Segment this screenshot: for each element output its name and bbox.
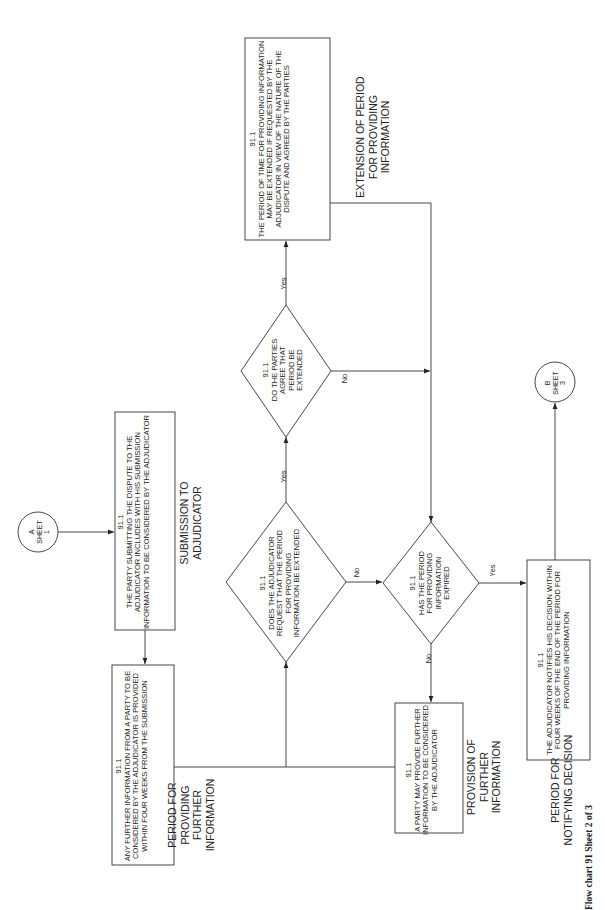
provision-description: A PARTY MAY PROVIDE FURTHER INFORMATION … (413, 705, 439, 835)
label-expired-yes: Yes (488, 564, 497, 576)
connector-a: A SHEET 1 (28, 512, 48, 552)
parties-agree-text: 91.1 DO THE PARTIES AGREE THAT PERIOD BE… (262, 335, 310, 405)
submission-text: 91.1 THE PARTY SUBMITTING THE DISPUTE TO… (115, 413, 175, 631)
extension-description: THE PERIOD OF TIME FOR PROVIDING INFORMA… (257, 41, 292, 238)
connector-a-sheet-label: SHEET (36, 512, 44, 552)
connector-a-letter: A (28, 512, 36, 552)
submission-description: THE PARTY SUBMITTING THE DISPUTE TO THE … (125, 415, 151, 629)
label-agree-yes: Yes (279, 277, 288, 289)
extension-caption: EXTENSION OF PERIOD FOR PROVIDING INFORM… (354, 67, 384, 207)
connector-b-sheet-number: 3 (559, 363, 567, 403)
further-info-caption: PERIOD FOR PROVIDING FURTHER INFORMATION (166, 775, 226, 855)
connector-b-letter: B (544, 363, 552, 403)
provision-caption: PROVISION OF FURTHER INFORMATION (465, 722, 495, 832)
notify-caption: PERIOD FOR NOTIFYING DECISION (549, 730, 579, 850)
submission-caption: SUBMISSION TO ADJUDICATOR (178, 468, 208, 578)
further-info-text: 91.1 ANY FURTHER INFORMATION FROM A PART… (113, 666, 173, 866)
adjudicator-request-question: DOES THE ADJUDICATOR REQUEST THAT THE PE… (267, 529, 302, 637)
label-expired-no: No (424, 654, 433, 664)
connector-b-sheet-label: SHEET (552, 363, 560, 403)
label-request-yes: Yes (279, 470, 288, 482)
figure-caption: Flow chart 91 Sheet 2 of 3 (584, 780, 598, 910)
label-request-no: No (352, 568, 361, 578)
label-agree-no: No (340, 374, 349, 384)
parties-agree-question: DO THE PARTIES AGREE THAT PERIOD BE EXTE… (270, 339, 305, 401)
period-expired-text: 91.1 HAS THE PERIOD FOR PROVIDING INFORM… (409, 547, 455, 619)
notify-description: THE ADJUDICATOR NOTIFIES HIS DECISION WI… (545, 565, 571, 755)
provision-text: 91.1 A PARTY MAY PROVIDE FURTHER INFORMA… (401, 705, 457, 835)
adjudicator-request-text: 91.1 DOES THE ADJUDICATOR REQUEST THAT T… (259, 528, 313, 638)
connector-b: B SHEET 3 (544, 363, 566, 403)
period-expired-question: HAS THE PERIOD FOR PROVIDING INFORMATION… (417, 551, 452, 615)
further-info-description: ANY FURTHER INFORMATION FROM A PARTY TO … (123, 671, 149, 861)
connector-a-sheet-number: 1 (43, 512, 51, 552)
extension-text: 91.1 THE PERIOD OF TIME FOR PROVIDING IN… (245, 38, 329, 240)
